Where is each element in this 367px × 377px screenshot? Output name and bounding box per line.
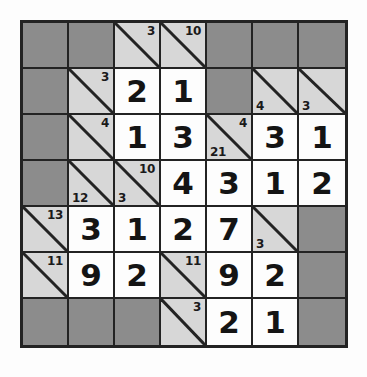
entry-digit-r4c6: 1: [253, 161, 297, 205]
entry-cell-r4c5[interactable]: 3: [207, 161, 253, 207]
entry-cell-r5c5[interactable]: 7: [207, 207, 253, 253]
entry-cell-r3c3[interactable]: 1: [115, 115, 161, 161]
clue-across-sum-r5c6: 3: [256, 238, 264, 250]
entry-cell-r3c7[interactable]: 1: [299, 115, 345, 161]
entry-digit-r5c4: 2: [161, 207, 205, 251]
kakuro-puzzle: 3103214341321431123104312133127311921192…: [0, 0, 367, 377]
kakuro-grid: 3103214341321431123104312133127311921192…: [20, 20, 348, 348]
entry-cell-r6c2[interactable]: 9: [69, 253, 115, 299]
entry-digit-r6c5: 9: [207, 253, 251, 297]
clue-down-sum-r2c2: 3: [101, 71, 109, 83]
clue-cell-r6c4: 11: [161, 253, 207, 299]
entry-cell-r5c2[interactable]: 3: [69, 207, 115, 253]
entry-cell-r2c4[interactable]: 1: [161, 69, 207, 115]
entry-digit-r2c4: 1: [161, 69, 205, 113]
clue-cell-r4c3: 310: [115, 161, 161, 207]
blocked-cell-r7c7: [299, 299, 345, 345]
blocked-cell-r1c7: [299, 23, 345, 69]
clue-down-sum-r1c3: 3: [147, 25, 155, 37]
entry-digit-r5c2: 3: [69, 207, 113, 251]
clue-cell-r1c3: 3: [115, 23, 161, 69]
clue-across-sum-r3c5: 21: [210, 146, 226, 158]
entry-digit-r6c2: 9: [69, 253, 113, 297]
entry-digit-r4c5: 3: [207, 161, 251, 205]
entry-cell-r5c3[interactable]: 1: [115, 207, 161, 253]
entry-digit-r5c3: 1: [115, 207, 159, 251]
clue-down-sum-r6c1: 11: [47, 255, 63, 267]
entry-cell-r6c3[interactable]: 2: [115, 253, 161, 299]
entry-cell-r7c5[interactable]: 2: [207, 299, 253, 345]
blocked-cell-r3c1: [23, 115, 69, 161]
entry-cell-r7c6[interactable]: 1: [253, 299, 299, 345]
blocked-cell-r5c7: [299, 207, 345, 253]
blocked-cell-r7c2: [69, 299, 115, 345]
blocked-cell-r2c1: [23, 69, 69, 115]
clue-down-sum-r4c3: 10: [139, 163, 155, 175]
clue-down-sum-r1c4: 10: [185, 25, 201, 37]
clue-cell-r3c5: 214: [207, 115, 253, 161]
blocked-cell-r2c5: [207, 69, 253, 115]
entry-digit-r5c5: 7: [207, 207, 251, 251]
clue-down-sum-r3c2: 4: [101, 117, 109, 129]
entry-digit-r6c6: 2: [253, 253, 297, 297]
clue-cell-r6c1: 11: [23, 253, 69, 299]
blocked-cell-r6c7: [299, 253, 345, 299]
entry-digit-r7c5: 2: [207, 299, 251, 345]
entry-cell-r5c4[interactable]: 2: [161, 207, 207, 253]
blocked-cell-r1c6: [253, 23, 299, 69]
entry-digit-r3c3: 1: [115, 115, 159, 159]
clue-cell-r1c4: 10: [161, 23, 207, 69]
clue-down-sum-r7c4: 3: [193, 301, 201, 313]
clue-cell-r5c6: 3: [253, 207, 299, 253]
entry-digit-r3c6: 3: [253, 115, 297, 159]
clue-across-sum-r4c3: 3: [118, 192, 126, 204]
clue-cell-r2c7: 3: [299, 69, 345, 115]
clue-cell-r3c2: 4: [69, 115, 115, 161]
blocked-cell-r4c1: [23, 161, 69, 207]
entry-cell-r3c6[interactable]: 3: [253, 115, 299, 161]
entry-digit-r3c4: 3: [161, 115, 205, 159]
entry-digit-r7c6: 1: [253, 299, 297, 345]
entry-cell-r4c6[interactable]: 1: [253, 161, 299, 207]
entry-digit-r3c7: 1: [299, 115, 345, 159]
entry-cell-r6c6[interactable]: 2: [253, 253, 299, 299]
blocked-cell-r7c1: [23, 299, 69, 345]
clue-across-sum-r2c6: 4: [256, 100, 264, 112]
entry-cell-r3c4[interactable]: 3: [161, 115, 207, 161]
blocked-cell-r1c5: [207, 23, 253, 69]
entry-digit-r6c3: 2: [115, 253, 159, 297]
entry-cell-r4c7[interactable]: 2: [299, 161, 345, 207]
clue-down-sum-r5c1: 13: [47, 209, 63, 221]
clue-across-sum-r4c2: 12: [72, 192, 88, 204]
blocked-cell-r1c1: [23, 23, 69, 69]
clue-cell-r7c4: 3: [161, 299, 207, 345]
clue-cell-r5c1: 13: [23, 207, 69, 253]
entry-cell-r4c4[interactable]: 4: [161, 161, 207, 207]
blocked-cell-r7c3: [115, 299, 161, 345]
entry-cell-r6c5[interactable]: 9: [207, 253, 253, 299]
clue-down-sum-r3c5: 4: [239, 117, 247, 129]
clue-down-sum-r6c4: 11: [185, 255, 201, 267]
entry-digit-r2c3: 2: [115, 69, 159, 113]
clue-cell-r4c2: 12: [69, 161, 115, 207]
entry-digit-r4c4: 4: [161, 161, 205, 205]
entry-cell-r2c3[interactable]: 2: [115, 69, 161, 115]
blocked-cell-r1c2: [69, 23, 115, 69]
clue-cell-r2c6: 4: [253, 69, 299, 115]
clue-cell-r2c2: 3: [69, 69, 115, 115]
clue-across-sum-r2c7: 3: [302, 100, 310, 112]
entry-digit-r4c7: 2: [299, 161, 345, 205]
